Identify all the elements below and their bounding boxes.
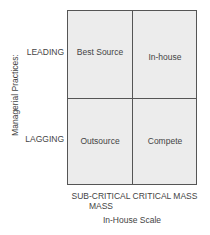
row-label-leading: LEADING bbox=[4, 47, 64, 57]
column-label-subcritical: SUB-CRITICAL MASS bbox=[68, 191, 134, 211]
column-label-critical: CRITICAL MASS bbox=[132, 191, 198, 201]
cell-outsource: Outsource bbox=[68, 136, 132, 146]
row-label-lagging: LAGGING bbox=[4, 134, 64, 144]
horizontal-divider bbox=[68, 98, 196, 99]
cell-compete: Compete bbox=[133, 136, 197, 146]
quadrant-grid: Best Source In-house Outsource Compete bbox=[67, 10, 197, 185]
cell-in-house: In-house bbox=[133, 52, 197, 62]
y-axis-label: Managerial Practices: bbox=[10, 50, 20, 140]
cell-best-source: Best Source bbox=[68, 47, 132, 57]
x-axis-label: In-House Scale bbox=[67, 215, 197, 225]
